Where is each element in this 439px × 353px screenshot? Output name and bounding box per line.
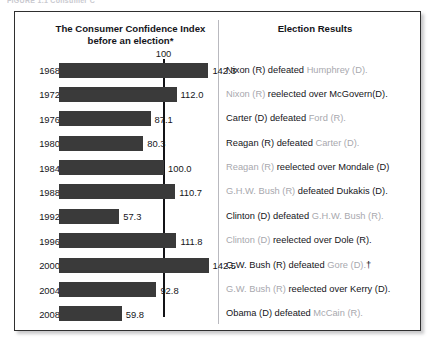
chart-rows: 1968142.3Nixon (R) defeated Humphrey (D)…	[15, 60, 420, 328]
election-result-text: Nixon (R) defeated Humphrey (D).	[226, 65, 368, 75]
election-result-text: Obama (D) defeated McCain (R).	[226, 308, 363, 318]
bar-value-label: 111.8	[180, 236, 202, 247]
row-year-label: 1992	[21, 211, 60, 222]
election-result-text: G.W. Bush (R) defeated Gore (D).†	[226, 260, 371, 270]
row-year-label: 1996	[21, 236, 60, 247]
row-year-label: 1968	[21, 65, 60, 76]
chart-row: 200492.8G.W. Bush (R) reelected over Ker…	[15, 280, 420, 304]
chart-row: 1972112.0Nixon (R) reelected over McGove…	[15, 84, 420, 108]
bar	[59, 87, 177, 102]
row-year-label: 2008	[21, 309, 60, 320]
chart-header-line1: The Consumer Confidence Index	[43, 23, 218, 35]
bar-value-label: 112.0	[181, 89, 204, 100]
election-result-text: Clinton (D) reelected over Dole (R).	[226, 235, 372, 245]
bar	[59, 111, 151, 126]
result-part-winner: Carter (D) defeated	[226, 113, 309, 123]
row-year-label: 2000	[21, 260, 60, 271]
results-column-header: Election Results	[220, 23, 410, 35]
result-part-dagger: †	[366, 260, 371, 270]
row-year-label: 1976	[21, 114, 60, 125]
election-result-text: Reagan (R) reelected over Mondale (D)	[226, 162, 389, 172]
result-part-loser: Humphrey (D).	[307, 65, 368, 75]
chart-header-line2: before an election*	[43, 35, 218, 47]
row-year-label: 1972	[21, 89, 60, 100]
result-part-winner: defeated Dukakis (D).	[298, 186, 388, 196]
result-part-winner: Reagan (R) defeated	[226, 138, 315, 148]
row-year-label: 2004	[21, 285, 60, 296]
bar-value-label: 57.3	[123, 211, 141, 222]
election-result-text: Nixon (R) reelected over McGovern(D).	[226, 89, 388, 99]
result-part-loser: G.H.W. Bush (R).	[312, 211, 384, 221]
chart-row: 1984100.0Reagan (R) reelected over Monda…	[15, 158, 420, 182]
result-part-loser: Carter (D).	[315, 138, 359, 148]
election-result-text: Reagan (R) defeated Carter (D).	[226, 138, 359, 148]
result-part-loser: G.H.W. Bush (R)	[226, 186, 298, 196]
bar-value-label: 92.8	[160, 285, 178, 296]
result-part-loser: Reagan (R)	[226, 162, 277, 172]
chart-row: 1988110.7G.H.W. Bush (R) defeated Dukaki…	[15, 182, 420, 206]
election-result-text: Carter (D) defeated Ford (R).	[226, 113, 346, 123]
result-part-loser: Ford (R).	[309, 113, 346, 123]
result-part-winner: reelected over Dole (R).	[273, 235, 372, 245]
chart-row: 198080.3Reagan (R) defeated Carter (D).	[15, 133, 420, 157]
bar	[59, 258, 209, 273]
result-part-loser: G.W. Bush (R)	[226, 284, 289, 294]
result-part-loser: Clinton (D)	[226, 235, 273, 245]
bar	[59, 282, 156, 297]
result-part-loser: Gore (D).	[327, 260, 366, 270]
reference-line-label: 100	[146, 48, 181, 59]
row-year-label: 1980	[21, 138, 60, 149]
bar	[59, 209, 119, 224]
chart-column-header: The Consumer Confidence Index before an …	[43, 23, 218, 46]
result-part-winner: G.W. Bush (R) defeated	[226, 260, 327, 270]
result-part-loser: McCain (R).	[313, 308, 363, 318]
row-year-label: 1984	[21, 163, 60, 174]
result-part-winner: reelected over McGovern(D).	[268, 89, 388, 99]
election-result-text: G.W. Bush (R) reelected over Kerry (D).	[226, 284, 390, 294]
chart-row: 2000142.5G.W. Bush (R) defeated Gore (D)…	[15, 255, 420, 279]
bar-value-label: 87.1	[155, 114, 173, 125]
bar	[59, 136, 143, 151]
result-part-winner: Clinton (D) defeated	[226, 211, 312, 221]
election-result-text: Clinton (D) defeated G.H.W. Bush (R).	[226, 211, 384, 221]
chart-row: 199257.3Clinton (D) defeated G.H.W. Bush…	[15, 206, 420, 230]
bar-value-label: 110.7	[179, 187, 202, 198]
bar-value-label: 80.3	[147, 138, 165, 149]
election-result-text: G.H.W. Bush (R) defeated Dukakis (D).	[226, 186, 388, 196]
bar	[59, 160, 164, 175]
result-part-loser: Nixon (R)	[226, 89, 268, 99]
row-year-label: 1988	[21, 187, 60, 198]
chart-row: 1968142.3Nixon (R) defeated Humphrey (D)…	[15, 60, 420, 84]
bar-value-label: 59.8	[126, 309, 144, 320]
bar	[59, 306, 122, 321]
bar	[59, 233, 176, 248]
chart-row: 197687.1Carter (D) defeated Ford (R).	[15, 109, 420, 133]
result-part-winner: Obama (D) defeated	[226, 308, 313, 318]
result-part-winner: reelected over Mondale (D)	[277, 162, 390, 172]
result-part-winner: Nixon (R) defeated	[226, 65, 307, 75]
bar-value-label: 100.0	[168, 163, 191, 174]
bar	[59, 184, 175, 199]
chart-row: 1996111.8Clinton (D) reelected over Dole…	[15, 231, 420, 255]
figure-frame: The Consumer Confidence Index before an …	[14, 11, 421, 331]
figure-caption: FIGURE 1.1 Consumer C	[7, 0, 95, 5]
bar	[59, 63, 208, 78]
chart-row: 200859.8Obama (D) defeated McCain (R).	[15, 304, 420, 328]
result-part-winner: reelected over Kerry (D).	[289, 284, 391, 294]
